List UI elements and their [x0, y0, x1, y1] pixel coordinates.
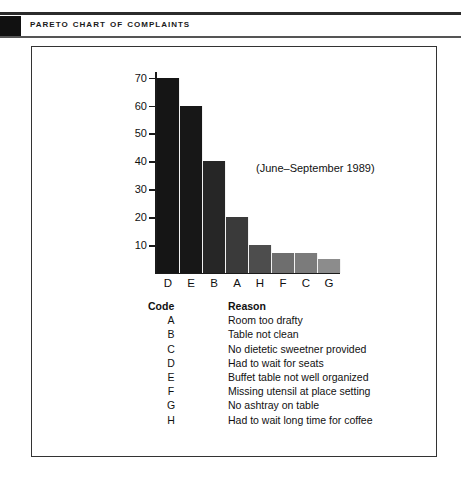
chart-annotation: (June–September 1989) — [256, 162, 375, 174]
legend-cell-reason: No ashtray on table — [228, 398, 319, 412]
x-axis-label-b: B — [203, 277, 226, 289]
pareto-chart-plot: 10203040506070 DEBAHFCG (June–September … — [125, 72, 340, 300]
page-title: Pareto Chart of Complaints — [30, 17, 190, 29]
legend-cell-reason: No dietetic sweetner provided — [228, 342, 366, 356]
y-axis-tick — [149, 245, 155, 247]
bar-b — [203, 161, 226, 273]
legend-cell-reason: Had to wait long time for coffee — [228, 413, 373, 427]
legend-cell-code: H — [142, 413, 200, 427]
legend-row: EBuffet table not well organized — [142, 370, 412, 384]
legend-cell-reason: Missing utensil at place setting — [228, 384, 370, 398]
y-axis-tick — [149, 189, 155, 191]
legend-header-reason: Reason — [228, 299, 266, 313]
figure-frame: 10203040506070 DEBAHFCG (June–September … — [31, 46, 437, 457]
bar-a — [226, 217, 249, 273]
legend-row: FMissing utensil at place setting — [142, 384, 412, 398]
legend-header-row: Code Reason — [142, 299, 412, 313]
legend-cell-code: F — [142, 384, 200, 398]
legend-cell-code: C — [142, 342, 200, 356]
bar-c — [295, 253, 318, 273]
legend-row: ARoom too drafty — [142, 313, 412, 327]
x-axis-label-g: G — [318, 277, 341, 289]
y-axis-tick-label: 40 — [135, 155, 147, 167]
complaint-code-legend: Code Reason ARoom too draftyBTable not c… — [142, 299, 412, 427]
x-axis-label-f: F — [272, 277, 295, 289]
y-axis-tick — [149, 106, 155, 108]
legend-row: GNo ashtray on table — [142, 398, 412, 412]
bar-f — [272, 253, 295, 273]
bar-h — [249, 245, 272, 273]
legend-cell-reason: Buffet table not well organized — [228, 370, 368, 384]
y-axis-tick-label: 20 — [135, 211, 147, 223]
x-axis-label-h: H — [249, 277, 272, 289]
header-marker-square — [0, 16, 21, 37]
y-axis-tick — [149, 217, 155, 219]
y-axis-tick-label: 30 — [135, 183, 147, 195]
legend-cell-code: E — [142, 370, 200, 384]
legend-row: HHad to wait long time for coffee — [142, 413, 412, 427]
x-axis-label-e: E — [180, 277, 203, 289]
legend-cell-code: G — [142, 398, 200, 412]
header-top-rule — [0, 12, 461, 15]
bar-d — [157, 78, 180, 273]
legend-cell-code: A — [142, 313, 200, 327]
y-axis-tick-label: 60 — [135, 100, 147, 112]
y-axis-tick — [149, 78, 155, 80]
y-axis-tick-label: 10 — [135, 239, 147, 251]
legend-row: CNo dietetic sweetner provided — [142, 342, 412, 356]
bar-e — [180, 106, 203, 274]
bar-g — [318, 259, 341, 273]
x-axis-label-d: D — [157, 277, 180, 289]
legend-cell-reason: Table not clean — [228, 327, 299, 341]
legend-cell-code: B — [142, 327, 200, 341]
header-bottom-rule — [0, 36, 461, 38]
x-axis-label-c: C — [295, 277, 318, 289]
legend-cell-reason: Had to wait for seats — [228, 356, 324, 370]
legend-cell-reason: Room too drafty — [228, 313, 303, 327]
y-axis-tick-label: 50 — [135, 127, 147, 139]
legend-header-code: Code — [142, 299, 206, 313]
legend-cell-code: D — [142, 356, 200, 370]
legend-row: DHad to wait for seats — [142, 356, 412, 370]
y-axis-tick-label: 70 — [135, 72, 147, 84]
y-axis-tick — [149, 161, 155, 163]
y-axis-tick — [149, 133, 155, 135]
legend-rows: ARoom too draftyBTable not cleanCNo diet… — [142, 313, 412, 427]
x-axis-label-a: A — [226, 277, 249, 289]
legend-row: BTable not clean — [142, 327, 412, 341]
